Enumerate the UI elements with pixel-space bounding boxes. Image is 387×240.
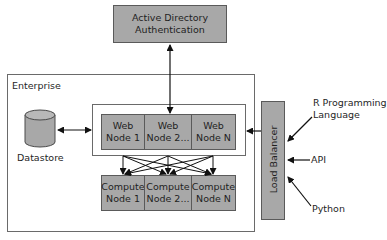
connector-arrows: [0, 0, 387, 240]
